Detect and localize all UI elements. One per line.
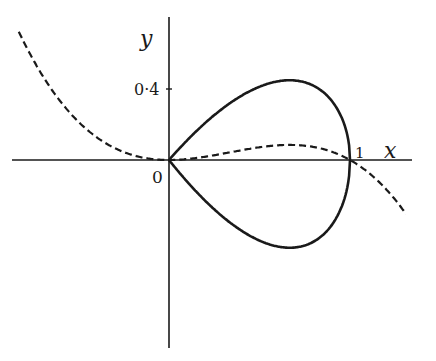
origin-label: 0 <box>152 167 163 187</box>
curve-diagram: y x 0 1 0·4 <box>0 0 436 361</box>
x-tick-label-1: 1 <box>355 144 365 162</box>
y-axis-label: y <box>139 26 153 51</box>
plot-canvas: y x 0 1 0·4 <box>0 0 436 361</box>
solid-loop-curve <box>169 80 350 248</box>
x-axis-label: x <box>384 138 397 163</box>
y-tick-label-0-4: 0·4 <box>134 80 159 99</box>
